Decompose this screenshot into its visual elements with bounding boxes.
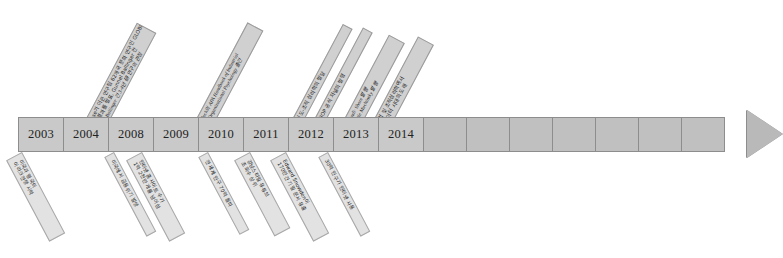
timeline-year-cell[interactable]: 2009 (153, 117, 199, 152)
callout-line: Zedeck의 APA Handbook of Industrial (198, 29, 253, 125)
timeline-cells: 2003 2004 2008 2009 2010 2011 2012 2013 … (18, 117, 724, 152)
timeline-year-cell[interactable]: 2010 (198, 117, 244, 152)
timeline-empty-cell[interactable] (466, 117, 510, 152)
timeline-empty-cell[interactable] (681, 117, 725, 152)
timeline-year-cell[interactable]: 2011 (243, 117, 289, 152)
timeline-year-cell[interactable]: 2003 (18, 117, 64, 152)
timeline-year-cell[interactable]: 2008 (108, 117, 154, 152)
timeline-year-cell[interactable]: 2014 (378, 117, 424, 152)
callout-line: 전 세계 인구 70억 돌파 (203, 159, 244, 229)
timeline-empty-cell[interactable] (552, 117, 596, 152)
timeline-year-cell[interactable]: 2013 (333, 117, 379, 152)
callout-line: Edward Snowden이 (281, 159, 324, 232)
callout-line: 30억 인구가 인터넷 사용 (323, 159, 365, 231)
timeline-year-cell[interactable]: 2012 (288, 117, 334, 152)
callout-line: House가 이끈 연구팀 62개국 문화 연구인 GLOBE (86, 29, 142, 127)
timeline-empty-cell[interactable] (638, 117, 682, 152)
callout-line: 이라크전쟁 시작 (12, 162, 55, 235)
timeline-year-cell[interactable]: 2004 (63, 117, 109, 152)
callout-below-2014: 30억 인구가 인터넷 사용 (318, 152, 370, 237)
timeline-empty-cell[interactable] (595, 117, 639, 152)
callout-below-2003: 미국과 영국의 이라크전쟁 시작 (6, 152, 65, 242)
callout-line: and Organizational Psychology 출간 (203, 32, 258, 128)
timeline-empty-cell[interactable] (423, 117, 467, 152)
callout-line: 연구 결과를 발표, Gunnel Ballinger 간 (91, 32, 147, 130)
timeline-empty-cell[interactable] (509, 117, 553, 152)
callout-line: 미국과 영국의 (17, 159, 60, 232)
arrow-head-icon (747, 110, 783, 158)
callout-line: 조회수 상위 (240, 162, 280, 230)
